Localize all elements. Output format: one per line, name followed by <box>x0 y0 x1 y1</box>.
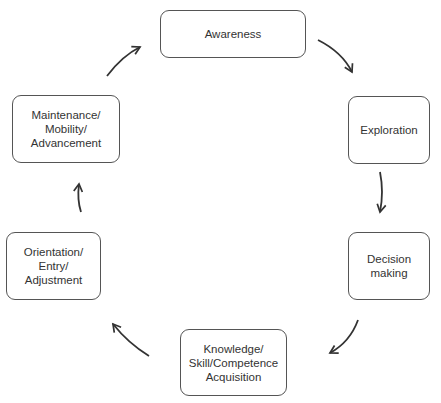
cycle-arrows <box>0 0 441 403</box>
arrow-orientation-to-maintenance <box>78 184 81 212</box>
arrow-maintenance-to-awareness <box>107 47 140 76</box>
arrow-awareness-to-exploration <box>318 40 352 72</box>
arrow-knowledge-to-orientation <box>113 324 149 356</box>
arrow-exploration-to-decision <box>380 172 382 212</box>
arrow-decision-to-knowledge <box>330 320 358 353</box>
